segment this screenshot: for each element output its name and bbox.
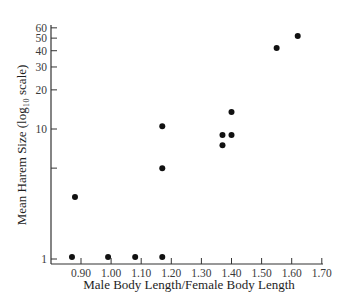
x-axis-title: Male Body Length/Female Body Length [83, 277, 295, 292]
data-point [274, 45, 280, 51]
x-tick: 1.20 [161, 258, 181, 279]
y-tick-label: 1 [41, 253, 47, 265]
y-tick-label: 20 [36, 84, 48, 96]
data-point [72, 194, 78, 200]
y-tick: 1 [41, 253, 57, 265]
data-point [69, 254, 75, 260]
y-tick-label: 30 [36, 61, 48, 73]
y-tick-label: 60 [36, 22, 48, 34]
data-point [132, 254, 138, 260]
y-ticks: 1102030405060 [36, 22, 58, 265]
axes [51, 25, 323, 264]
data-point [159, 123, 165, 129]
x-tick: 1.70 [312, 258, 332, 279]
data-point [219, 142, 225, 148]
data-points [69, 33, 301, 260]
data-point [159, 165, 165, 171]
y-tick-label: 40 [36, 45, 48, 57]
x-tick: 1.00 [101, 258, 121, 279]
x-tick: 1.30 [191, 258, 211, 279]
y-tick: 60 [36, 22, 58, 34]
x-tick-label: 1.70 [312, 267, 332, 279]
y-tick: 40 [36, 45, 58, 57]
y-tick: 30 [36, 61, 58, 73]
y-tick: 50 [36, 32, 58, 44]
data-point [229, 109, 235, 115]
x-tick: 1.10 [131, 258, 151, 279]
data-point [159, 254, 165, 260]
y-tick: 20 [36, 84, 58, 96]
data-point [295, 33, 301, 39]
x-tick: 0.90 [71, 258, 91, 279]
y-axis-title: Mean Harem Size (log₁₀ scale) [14, 65, 29, 226]
scatter-chart: 1102030405060 0.901.001.101.201.301.401.… [0, 0, 351, 304]
y-tick-label: 50 [36, 32, 48, 44]
y-tick: 10 [36, 123, 58, 135]
x-tick: 1.60 [282, 258, 302, 279]
x-ticks: 0.901.001.101.201.301.401.501.601.70 [71, 258, 332, 279]
data-point [219, 132, 225, 138]
data-point [105, 254, 111, 260]
data-point [229, 132, 235, 138]
x-tick: 1.50 [252, 258, 272, 279]
x-tick: 1.40 [221, 258, 241, 279]
y-tick-label: 10 [36, 123, 48, 135]
